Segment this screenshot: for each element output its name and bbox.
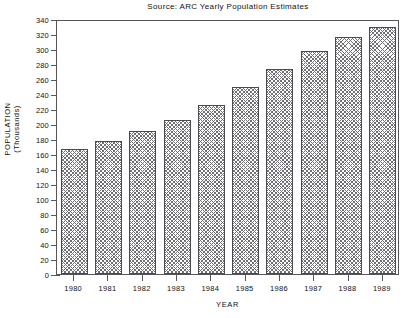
population-bar-chart: Source: ARC Yearly Population Estimates …: [0, 0, 410, 318]
bar-1985: [232, 87, 259, 274]
plot-area: [56, 20, 399, 275]
y-tick-label: 220: [19, 106, 49, 115]
x-tick-mark: [176, 275, 177, 281]
y-tick-label: 100: [19, 196, 49, 205]
x-axis-label: YEAR: [56, 300, 399, 309]
x-tick-mark: [279, 275, 280, 281]
y-tick-label: 280: [19, 61, 49, 70]
x-tick-mark: [210, 275, 211, 281]
bar-1988: [335, 37, 362, 274]
x-tick-mark: [348, 275, 349, 281]
x-tick-label-1982: 1982: [133, 284, 151, 293]
x-tick-label-1980: 1980: [64, 284, 82, 293]
bar-1984: [198, 105, 225, 275]
y-tick-label: 60: [19, 226, 49, 235]
y-tick-label: 340: [19, 16, 49, 25]
y-tick-label: 200: [19, 121, 49, 130]
x-tick-label-1983: 1983: [167, 284, 185, 293]
x-tick-mark: [107, 275, 108, 281]
x-tick-mark: [142, 275, 143, 281]
y-axis-label-line1: POPULATION: [3, 86, 12, 172]
y-tick-label: 240: [19, 91, 49, 100]
x-tick-label-1984: 1984: [201, 284, 219, 293]
x-tick-label-1985: 1985: [236, 284, 254, 293]
x-tick-mark: [245, 275, 246, 281]
x-tick-label-1987: 1987: [304, 284, 322, 293]
bar-1989: [369, 27, 396, 275]
y-tick-label: 160: [19, 151, 49, 160]
bar-1981: [95, 141, 122, 275]
chart-title: Source: ARC Yearly Population Estimates: [56, 2, 400, 11]
y-tick-label: 0: [19, 271, 49, 280]
y-tick-label: 320: [19, 31, 49, 40]
bars-layer: [57, 21, 398, 274]
y-tick-label: 140: [19, 166, 49, 175]
bar-1982: [129, 131, 156, 274]
bar-1983: [164, 120, 191, 275]
x-tick-label-1989: 1989: [373, 284, 391, 293]
bar-1987: [301, 51, 328, 275]
x-tick-mark: [313, 275, 314, 281]
y-tick-mark-inner: [56, 275, 60, 276]
y-tick-label: 300: [19, 46, 49, 55]
y-tick-label: 40: [19, 241, 49, 250]
y-tick-label: 80: [19, 211, 49, 220]
x-tick-mark: [382, 275, 383, 281]
x-tick-label-1988: 1988: [339, 284, 357, 293]
y-tick-label: 120: [19, 181, 49, 190]
bar-1986: [266, 69, 293, 275]
y-tick-label: 260: [19, 76, 49, 85]
bar-1980: [61, 149, 88, 274]
y-tick-label: 20: [19, 256, 49, 265]
x-tick-label-1981: 1981: [98, 284, 116, 293]
x-tick-label-1986: 1986: [270, 284, 288, 293]
y-tick-label: 180: [19, 136, 49, 145]
x-tick-mark: [73, 275, 74, 281]
